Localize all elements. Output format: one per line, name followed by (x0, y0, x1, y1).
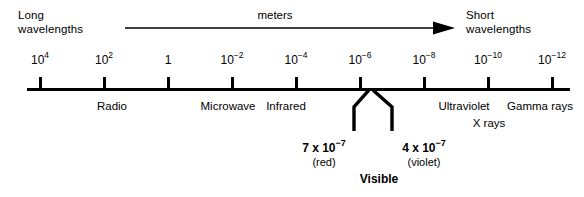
axis-tick-exponent: −6 (362, 50, 372, 60)
axis-tick-exponent: −10 (487, 50, 501, 60)
visible-endpoint-color-name: (violet) (407, 156, 440, 169)
axis-tick (103, 77, 106, 88)
axis-tick (231, 77, 234, 88)
axis-tick-label: 10−12 (538, 54, 566, 66)
direction-arrow-icon (125, 21, 455, 35)
axis-tick-label: 1 (165, 54, 172, 66)
visible-endpoint-color-name: (red) (312, 156, 335, 169)
visible-endpoint-wavelength: 7 x 10−7 (302, 141, 346, 155)
axis-tick-label: 10−4 (284, 54, 307, 66)
axis-tick (487, 77, 490, 88)
axis-tick-label: 10−6 (348, 54, 371, 66)
axis-tick-label: 104 (31, 54, 49, 66)
spectrum-band-label: Infrared (266, 100, 306, 113)
axis-tick-exponent: −2 (234, 50, 244, 60)
visible-range-bracket-icon (340, 85, 430, 133)
axis-tick-exponent: 4 (44, 50, 49, 60)
axis-tick (39, 77, 42, 88)
axis-tick-label: 102 (95, 54, 113, 66)
visible-caption-label: Visible (360, 172, 398, 186)
axis-tick (295, 77, 298, 88)
spectrum-axis-line (27, 88, 570, 91)
axis-tick-label: 10−2 (220, 54, 243, 66)
axis-tick-exponent: −12 (551, 50, 565, 60)
axis-tick (167, 77, 170, 88)
spectrum-band-label: X rays (473, 117, 506, 130)
spectrum-band-label: Ultraviolet (438, 100, 489, 113)
visible-endpoint-exponent: −7 (336, 138, 346, 148)
spectrum-band-label: Microwave (201, 100, 256, 113)
axis-tick-label: 10−10 (474, 54, 502, 66)
axis-tick-exponent: −4 (298, 50, 308, 60)
visible-endpoint-exponent: −7 (436, 138, 446, 148)
axis-tick (551, 77, 554, 88)
axis-tick-exponent: −8 (426, 50, 436, 60)
spectrum-band-label: Gamma rays (507, 100, 573, 113)
axis-tick-exponent: 2 (108, 50, 113, 60)
spectrum-band-label: Radio (97, 100, 127, 113)
axis-tick-label: 10−8 (412, 54, 435, 66)
electromagnetic-spectrum-figure: Long wavelengths Short wavelengths meter… (0, 0, 584, 197)
visible-endpoint-wavelength: 4 x 10−7 (402, 141, 446, 155)
